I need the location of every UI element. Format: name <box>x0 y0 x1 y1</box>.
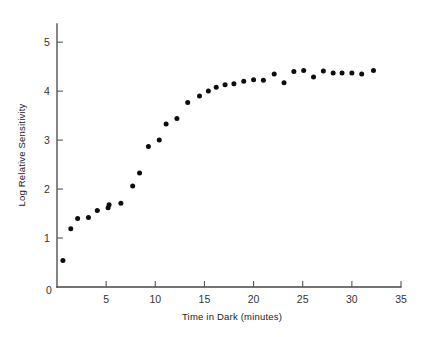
data-point <box>197 94 202 99</box>
x-tick-label: 35 <box>395 293 407 305</box>
data-point <box>107 202 112 207</box>
data-point <box>311 74 316 79</box>
data-point <box>359 71 364 76</box>
data-point <box>291 69 296 74</box>
y-tick-label: 5 <box>44 36 50 48</box>
data-point <box>331 70 336 75</box>
x-tick-label: 5 <box>103 293 109 305</box>
data-points-group <box>60 68 376 263</box>
x-axis-title: Time in Dark (minutes) <box>182 311 282 322</box>
x-axis-ticks: 05101520253035 <box>46 281 407 305</box>
data-point <box>261 78 266 83</box>
x-tick-label: 10 <box>149 293 161 305</box>
y-tick-label: 3 <box>44 134 50 146</box>
data-point <box>75 216 80 221</box>
y-axis-title: Log Relative Sensitivity <box>16 103 27 206</box>
data-point <box>157 138 162 143</box>
data-point <box>118 201 123 206</box>
y-tick-label: 4 <box>44 85 50 97</box>
data-point <box>185 100 190 105</box>
x-tick-label: 0 <box>46 284 52 296</box>
data-point <box>130 184 135 189</box>
data-point <box>86 215 91 220</box>
x-tick-label: 15 <box>199 293 211 305</box>
data-point <box>272 71 277 76</box>
x-tick-label: 20 <box>248 293 260 305</box>
data-point <box>282 80 287 85</box>
data-point <box>68 226 73 231</box>
x-tick-label: 25 <box>297 293 309 305</box>
data-point <box>251 77 256 82</box>
data-point <box>301 68 306 73</box>
data-point <box>321 69 326 74</box>
data-point <box>95 208 100 213</box>
data-point <box>340 70 345 75</box>
x-tick-label: 30 <box>346 293 358 305</box>
data-point <box>349 70 354 75</box>
data-point <box>231 81 236 86</box>
chart-canvas: 12345 05101520253035 Time in Dark (minut… <box>0 0 425 337</box>
data-point <box>164 121 169 126</box>
data-point <box>371 68 376 73</box>
data-point <box>223 82 228 87</box>
data-point <box>241 79 246 84</box>
data-point <box>174 116 179 121</box>
dark-adaptation-chart-figure: 12345 05101520253035 Time in Dark (minut… <box>0 0 425 337</box>
y-tick-label: 2 <box>44 183 50 195</box>
y-axis-ticks: 12345 <box>44 36 63 244</box>
data-point <box>146 144 151 149</box>
y-tick-label: 1 <box>44 232 50 244</box>
data-point <box>206 89 211 94</box>
data-point <box>137 170 142 175</box>
data-point <box>214 85 219 90</box>
axes-group <box>57 24 401 287</box>
data-point <box>60 258 65 263</box>
